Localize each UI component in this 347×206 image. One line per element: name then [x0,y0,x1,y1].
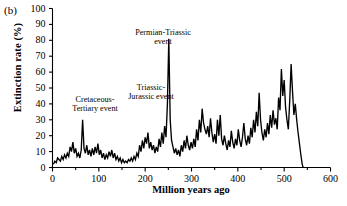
extinction-rate-line [53,39,303,168]
figure-panel-b: (b) Extinction rate (%) Million years ag… [0,0,347,206]
extinction-rate-plot [0,0,347,206]
